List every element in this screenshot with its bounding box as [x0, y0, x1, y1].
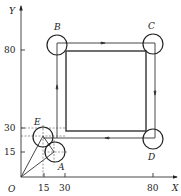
y-tick-label-15: 15 [4, 147, 16, 157]
tool-path [43, 43, 155, 138]
y-tick-label-80: 80 [4, 45, 16, 55]
point-label-b: B [53, 22, 61, 32]
x-tick-label-15: 15 [38, 183, 50, 193]
origin-label: O [8, 184, 16, 194]
x-tick-label-80: 80 [147, 183, 159, 193]
approach-line-oa [21, 152, 54, 177]
approach-line-oe [21, 136, 43, 177]
tool-path-diagram: Y X O 80 30 15 15 30 80 B C D E A [0, 0, 181, 196]
y-axis-label: Y [9, 6, 16, 16]
point-label-e: E [33, 117, 41, 127]
point-label-c: C [148, 21, 155, 31]
y-tick-label-30: 30 [4, 123, 16, 133]
point-label-a: A [57, 162, 65, 172]
x-axis-label: X [171, 183, 179, 193]
workpiece-outline [66, 51, 146, 131]
tool-circle-c [143, 34, 163, 54]
point-label-d: D [147, 152, 155, 162]
tool-circle-d [143, 129, 163, 149]
x-tick-label-30: 30 [59, 183, 71, 193]
